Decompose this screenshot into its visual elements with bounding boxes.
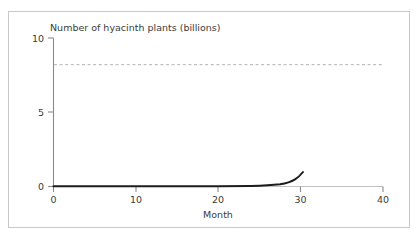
hyacinth-growth-chart: Number of hyacinth plants (billions) 10 …	[0, 0, 420, 236]
hyacinth-growth-curve	[54, 172, 304, 186]
chart-title: Number of hyacinth plants (billions)	[50, 22, 220, 33]
x-tick-label-40: 40	[377, 194, 389, 205]
x-tick-label-0: 0	[50, 194, 56, 205]
y-tick-label-0: 0	[38, 181, 44, 192]
y-tick-label-5: 5	[38, 107, 44, 118]
x-tick-label-20: 20	[212, 194, 224, 205]
x-axis-title: Month	[203, 209, 233, 220]
x-tick-label-10: 10	[130, 194, 142, 205]
y-tick-label-10: 10	[32, 33, 44, 44]
x-tick-label-30: 30	[294, 194, 306, 205]
chart-plot-area: Number of hyacinth plants (billions) 10 …	[0, 0, 420, 236]
